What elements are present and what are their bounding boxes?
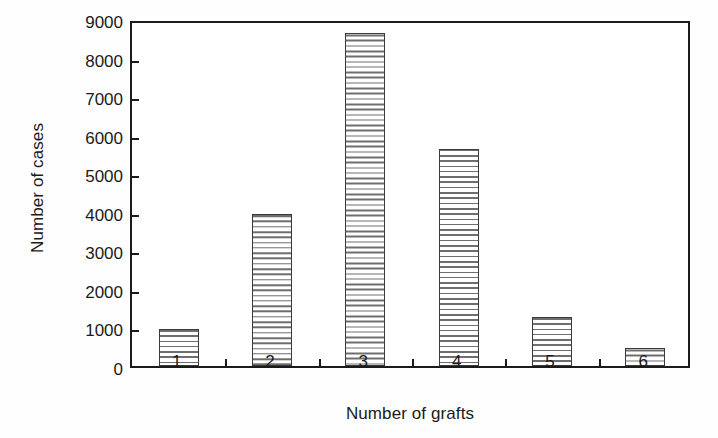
bar: [252, 214, 292, 366]
x-tick-label: 2: [265, 352, 274, 372]
x-tick-label: 5: [545, 352, 554, 372]
x-tick-label: 3: [359, 352, 368, 372]
y-tick-label: 2000: [85, 283, 123, 303]
y-tick-label: 7000: [85, 90, 123, 110]
bar: [439, 149, 479, 366]
y-tick-label: 8000: [85, 52, 123, 72]
bar: [345, 33, 385, 367]
bar-series: [132, 23, 688, 366]
plot-area: 0100020003000400050006000700080009000: [130, 21, 690, 368]
y-tick-label: 3000: [85, 244, 123, 264]
x-axis-title: Number of grafts: [130, 404, 690, 424]
y-tick-label: 4000: [85, 206, 123, 226]
y-axis-title: Number of cases: [28, 88, 48, 288]
bar-chart-figure: Number of cases 010002000300040005000600…: [0, 0, 718, 438]
x-tick-label: 1: [172, 352, 181, 372]
x-tick-label: 6: [639, 352, 648, 372]
y-tick-label: 1000: [85, 321, 123, 341]
y-tick-label: 9000: [85, 13, 123, 33]
y-tick-label: 0: [114, 360, 123, 380]
y-tick-label: 5000: [85, 167, 123, 187]
y-tick-label: 6000: [85, 129, 123, 149]
x-tick-label: 4: [452, 352, 461, 372]
